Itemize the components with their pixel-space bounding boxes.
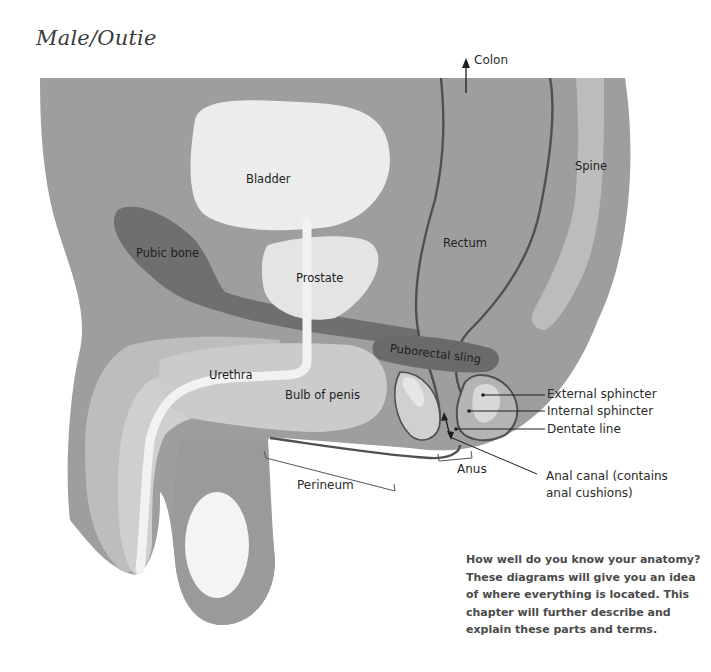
label-perineum: Perineum (297, 478, 354, 492)
colon-arrow-head (462, 58, 470, 68)
description-paragraph: How well do you know your anatomy? These… (466, 551, 706, 639)
anal-canal-line-2: anal cushions) (546, 485, 686, 502)
label-dentate-line: Dentate line (547, 422, 621, 436)
label-internal-sphincter: Internal sphincter (547, 404, 653, 418)
anal-canal-line-1: Anal canal (contains (546, 468, 686, 485)
label-anal-canal: Anal canal (contains anal cushions) (546, 468, 686, 502)
label-bladder: Bladder (246, 172, 291, 186)
bladder (191, 100, 390, 230)
label-rectum: Rectum (443, 236, 487, 250)
label-colon: Colon (474, 53, 508, 67)
label-prostate: Prostate (296, 271, 343, 285)
label-pubic-bone: Pubic bone (136, 246, 199, 260)
label-bulb-of-penis: Bulb of penis (285, 388, 360, 402)
label-urethra: Urethra (209, 368, 253, 382)
label-spine: Spine (575, 159, 607, 173)
label-anus: Anus (457, 462, 487, 476)
testicle (185, 492, 249, 598)
label-external-sphincter: External sphincter (547, 387, 657, 401)
